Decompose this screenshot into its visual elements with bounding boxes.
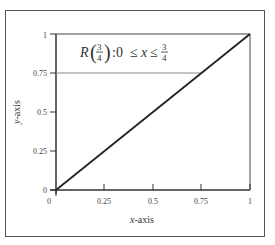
x-tick-0: 0	[47, 197, 51, 206]
svg-text:4: 4	[162, 53, 167, 63]
y-tick-0.5: 0.5	[37, 108, 47, 117]
paren-open: (	[90, 41, 97, 64]
y-tick-0: 0	[43, 186, 47, 195]
x-tick-0.75: 0.75	[194, 197, 208, 206]
paren-close: )	[104, 41, 111, 64]
svg-text:3: 3	[162, 42, 167, 52]
svg-text:≤: ≤	[150, 45, 158, 60]
x-tick-1: 1	[248, 197, 252, 206]
annotation-label: R ( 3 4 ) :0 ≤ x ≤ 3 4	[79, 41, 168, 64]
svg-text:x: x	[140, 45, 148, 60]
y-tick-0.25: 0.25	[33, 147, 47, 156]
x-tick-0.25: 0.25	[97, 197, 111, 206]
svg-text:≤: ≤	[130, 45, 138, 60]
y-tick-1: 1	[43, 31, 47, 40]
y-ticks	[50, 34, 56, 190]
x-tick-labels: 0 0.25 0.5 0.75 1	[47, 197, 252, 206]
svg-text::0: :0	[112, 45, 123, 60]
chart-plot: 0 0.25 0.5 0.75 1 0 0.25 0.5 0.75 1 R ( …	[0, 0, 275, 245]
svg-text:4: 4	[97, 53, 102, 63]
svg-text:R: R	[79, 45, 89, 60]
y-axis-label: y-axis	[11, 100, 22, 125]
x-axis-label: x-axis	[129, 214, 154, 225]
y-tick-0.75: 0.75	[33, 69, 47, 78]
x-tick-0.5: 0.5	[148, 197, 158, 206]
y-tick-labels: 0 0.25 0.5 0.75 1	[33, 31, 47, 195]
svg-text:3: 3	[97, 42, 102, 52]
